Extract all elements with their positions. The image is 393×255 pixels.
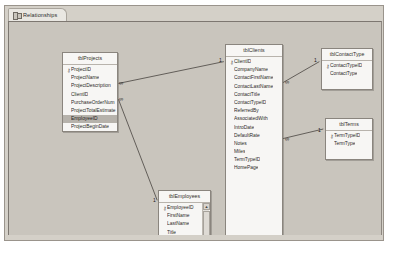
field-name: ProjectID: [71, 66, 91, 74]
field-row[interactable]: ContactTitle: [226, 91, 282, 99]
scrollbar-thumb[interactable]: [203, 211, 210, 237]
field-row[interactable]: Miles: [226, 148, 282, 156]
window-bottom-edge: [5, 235, 383, 240]
field-name: ContactTypeID: [234, 99, 266, 107]
field-name: TermTypeID: [234, 156, 260, 164]
field-name: IntroDate: [234, 124, 254, 132]
field-row[interactable]: ⚷TermTypeID: [326, 132, 372, 140]
field-row[interactable]: ⚷ProjectID: [63, 66, 117, 74]
relationship-line-clients-projects[interactable]: [118, 62, 223, 84]
field-row[interactable]: ProjectName: [63, 74, 117, 82]
field-row[interactable]: Notes: [226, 140, 282, 148]
relationship-marker-m-terms-one: 1: [318, 128, 321, 133]
document-tab-strip: Relationships: [5, 6, 383, 21]
relationship-marker-m-projects-clientid: ∞: [119, 81, 123, 86]
field-row[interactable]: ClientID: [63, 91, 117, 99]
table-box-tblContactType[interactable]: tblContactType⚷ContactTypeIDContactType: [321, 48, 373, 90]
field-name: ClientID: [234, 58, 251, 66]
field-name: TermTypeID: [334, 132, 360, 140]
relationship-marker-m-employees-one: 1: [153, 198, 156, 203]
table-title-tblEmployees[interactable]: tblEmployees: [159, 191, 210, 203]
field-name: ProjectEndDate: [71, 132, 105, 133]
field-row[interactable]: TermType: [326, 140, 372, 148]
field-row[interactable]: HomePage: [226, 164, 282, 172]
field-row[interactable]: ReferredBy: [226, 107, 282, 115]
field-name: ContactTitle: [234, 91, 260, 99]
field-list-tblTerms: ⚷TermTypeIDTermType: [326, 131, 372, 148]
relationship-marker-m-clients-contacttype: ∞: [285, 80, 289, 85]
relationship-marker-m-projects-employeeid: ∞: [119, 97, 123, 102]
field-name: ContactTypeID: [330, 62, 362, 70]
field-row[interactable]: ProjectEndDate: [63, 132, 117, 133]
field-row[interactable]: PurchaseOrderNum: [63, 99, 117, 107]
field-list-tblContactType: ⚷ContactTypeIDContactType: [322, 61, 372, 78]
field-name: ContactFirstName: [234, 74, 273, 82]
field-name: AssociatedWith: [234, 115, 268, 123]
field-name: ProjectBeginDate: [71, 123, 109, 131]
relationship-marker-m-clients-one: 1: [219, 58, 222, 63]
field-row[interactable]: ContactType: [322, 70, 372, 78]
field-row[interactable]: TermTypeID: [226, 156, 282, 164]
table-box-tblTerms[interactable]: tblTerms⚷TermTypeIDTermType: [325, 118, 373, 160]
field-name: ReferredBy: [234, 107, 259, 115]
field-row[interactable]: ContactFirstName: [226, 74, 282, 82]
field-name: HomePage: [234, 164, 258, 172]
field-name: DefaultRate: [234, 132, 260, 140]
field-row[interactable]: AssociatedWith: [226, 115, 282, 123]
field-row[interactable]: ⚷ContactTypeID: [322, 62, 372, 70]
field-name: ProjectDescription: [71, 82, 111, 90]
field-row[interactable]: IntroDate: [226, 124, 282, 132]
field-name: ClientID: [71, 91, 88, 99]
field-list-tblProjects: ⚷ProjectIDProjectNameProjectDescriptionC…: [63, 65, 117, 132]
field-name: EmployeeID: [71, 115, 98, 123]
table-box-tblEmployees[interactable]: tblEmployees⚷EmployeeIDFirstNameLastName…: [158, 190, 211, 237]
field-name: ProjectName: [71, 74, 99, 82]
field-name: ContactLastName: [234, 83, 273, 91]
field-name: LastName: [167, 220, 189, 228]
field-name: EmployeeID: [167, 204, 194, 212]
relationships-canvas[interactable]: tblProjects⚷ProjectIDProjectNameProjectD…: [8, 21, 382, 237]
field-name: Miles: [234, 148, 245, 156]
field-list-scrollbar[interactable]: ▲▼: [202, 203, 209, 237]
table-box-tblProjects[interactable]: tblProjects⚷ProjectIDProjectNameProjectD…: [62, 52, 118, 132]
field-name: CompanyName: [234, 66, 268, 74]
field-row[interactable]: EmployeeID: [63, 115, 117, 123]
table-title-tblProjects[interactable]: tblProjects: [63, 53, 117, 65]
field-row[interactable]: CompanyName: [226, 66, 282, 74]
table-box-tblClients[interactable]: tblClients⚷ClientIDCompanyNameContactFir…: [225, 44, 283, 237]
tab-relationships[interactable]: Relationships: [8, 8, 67, 21]
field-name: TermType: [334, 140, 355, 148]
table-title-tblClients[interactable]: tblClients: [226, 45, 282, 57]
relationships-window: Relationships tblProjects⚷ProjectIDProje…: [4, 5, 384, 241]
field-name: ProjectTotalEstimate: [71, 107, 116, 115]
table-title-tblTerms[interactable]: tblTerms: [326, 119, 372, 131]
relationships-icon: [13, 12, 20, 18]
field-row[interactable]: ProjectTotalEstimate: [63, 107, 117, 115]
table-title-tblContactType[interactable]: tblContactType: [322, 49, 372, 61]
field-row[interactable]: ContactTypeID: [226, 99, 282, 107]
relationship-line-employees-projects[interactable]: [118, 99, 157, 200]
relationship-marker-m-clients-termtype: ∞: [285, 137, 289, 142]
field-row[interactable]: ContactLastName: [226, 83, 282, 91]
field-name: FirstName: [167, 212, 190, 220]
scroll-up-arrow-icon[interactable]: ▲: [203, 203, 210, 210]
field-row[interactable]: ⚷ClientID: [226, 58, 282, 66]
tab-relationships-label: Relationships: [23, 12, 57, 18]
field-row[interactable]: ProjectBeginDate: [63, 123, 117, 131]
field-row[interactable]: DefaultRate: [226, 132, 282, 140]
field-name: PurchaseOrderNum: [71, 99, 115, 107]
relationship-marker-m-contacttype-one: 1: [314, 58, 317, 63]
field-name: Notes: [234, 140, 247, 148]
field-list-tblClients: ⚷ClientIDCompanyNameContactFirstNameCont…: [226, 57, 282, 173]
field-name: ContactType: [330, 70, 357, 78]
field-row[interactable]: ProjectDescription: [63, 82, 117, 90]
